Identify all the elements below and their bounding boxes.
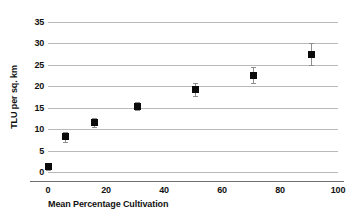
x-axis-tick-label: 0 xyxy=(33,186,63,195)
y-axis-tick-label: 10 xyxy=(22,125,44,134)
gridline xyxy=(48,151,338,152)
x-axis-tick-label: 100 xyxy=(323,186,353,195)
gridline xyxy=(48,129,338,130)
y-axis-title: TLU per sq. km xyxy=(9,47,19,147)
gridline xyxy=(48,65,338,66)
y-axis-tick-label: 25 xyxy=(22,61,44,70)
y-axis-tick-label: 30 xyxy=(22,39,44,48)
x-axis-title: Mean Percentage Cultivation xyxy=(48,199,168,209)
x-axis-line xyxy=(30,181,344,182)
x-axis-tick-label: 40 xyxy=(149,186,179,195)
x-axis-tick-label: 80 xyxy=(265,186,295,195)
data-point xyxy=(250,72,257,79)
x-axis-tick-label: 60 xyxy=(207,186,237,195)
error-bar-cap xyxy=(251,83,256,84)
x-axis-tick-label: 20 xyxy=(91,186,121,195)
data-point xyxy=(192,86,199,93)
error-bar-cap xyxy=(63,142,68,143)
data-point xyxy=(308,51,315,58)
gridline xyxy=(48,108,338,109)
error-bar-cap xyxy=(309,65,314,66)
error-bar-cap xyxy=(251,67,256,68)
y-axis-tick-label: 15 xyxy=(22,104,44,113)
y-axis-tick-label: 20 xyxy=(22,82,44,91)
error-bar-cap xyxy=(309,43,314,44)
gridline xyxy=(48,43,338,44)
error-bar-cap xyxy=(193,83,198,84)
y-axis-tick-label: 35 xyxy=(22,18,44,27)
x-axis-tick-labels: 020406080100 xyxy=(48,186,353,198)
data-point xyxy=(134,103,141,110)
error-bar-cap xyxy=(135,110,140,111)
data-point xyxy=(45,163,52,170)
data-point xyxy=(62,133,69,140)
y-axis-tick-label: 5 xyxy=(22,147,44,156)
gridline xyxy=(48,22,338,23)
chart-container: 05101520253035 020406080100 Mean Percent… xyxy=(0,0,353,221)
error-bar-cap xyxy=(193,96,198,97)
plot-area xyxy=(48,22,338,172)
gridline xyxy=(48,172,338,173)
data-point xyxy=(91,119,98,126)
y-axis-tick-label: 0 xyxy=(22,168,44,177)
error-bar-cap xyxy=(46,170,51,171)
error-bar-cap xyxy=(92,127,97,128)
